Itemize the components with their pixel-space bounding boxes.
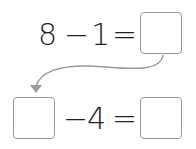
eq1-answer-box[interactable]: [140, 12, 182, 54]
arrowhead-icon: [30, 85, 42, 93]
eq1-equals: =: [112, 20, 137, 50]
eq2-answer-box[interactable]: [140, 97, 182, 139]
eq1-operator: −: [64, 20, 89, 50]
eq2-operand-a-box[interactable]: [13, 97, 55, 139]
eq2-equals: =: [112, 104, 137, 134]
eq2-operator: −: [63, 104, 88, 134]
eq1-operand-a: 8: [38, 20, 57, 50]
eq1-operand-b: 1: [91, 20, 110, 50]
eq2-operand-b: 4: [87, 104, 106, 134]
